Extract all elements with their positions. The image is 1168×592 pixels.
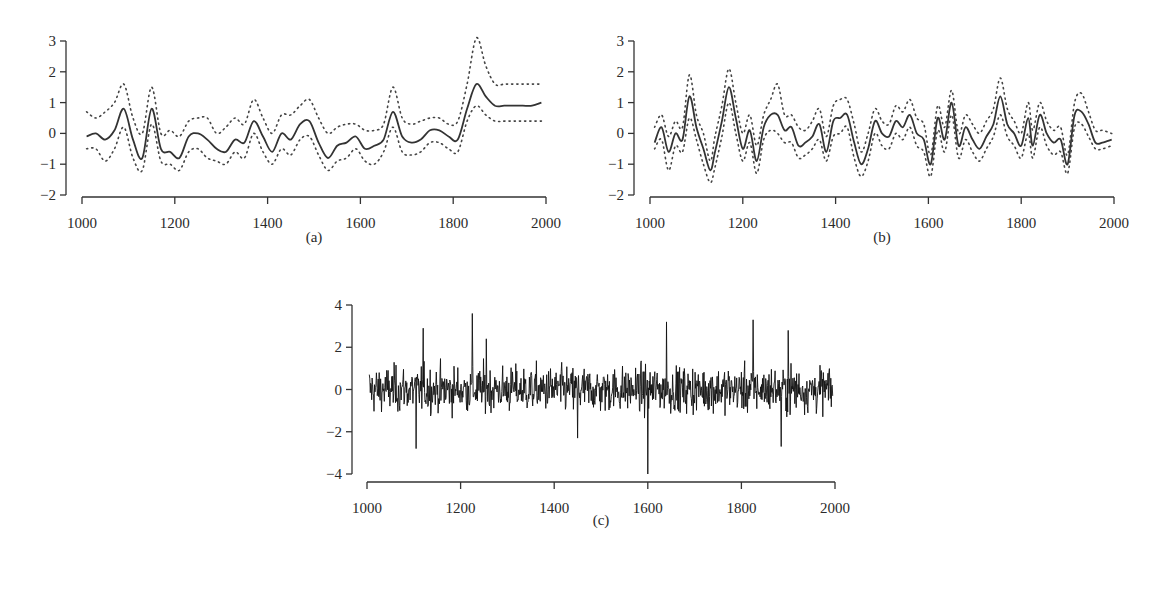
estimate-line — [87, 84, 542, 159]
x-tick-label: 1000 — [635, 215, 665, 231]
y-tick-label: −2 — [326, 424, 342, 440]
x-tick-label: 1800 — [726, 500, 756, 516]
x-tick-label: 1800 — [438, 215, 468, 231]
y-tick-label: 4 — [335, 297, 343, 313]
y-tick-label: 1 — [617, 95, 625, 111]
y-tick-label: −4 — [326, 466, 342, 482]
x-tick-label: 2000 — [820, 500, 850, 516]
y-tick-label: 0 — [49, 125, 57, 141]
y-tick-label: 0 — [335, 382, 343, 398]
panel-label-c: (c) — [593, 512, 610, 529]
x-tick-label: 1400 — [821, 215, 851, 231]
y-tick-label: 1 — [49, 95, 57, 111]
y-tick-label: 3 — [49, 33, 57, 49]
x-tick-label: 2000 — [1099, 215, 1129, 231]
noise-series-line — [369, 314, 832, 475]
x-tick-label: 1200 — [160, 215, 190, 231]
x-tick-label: 1600 — [913, 215, 943, 231]
panel-label-a: (a) — [306, 229, 323, 246]
chart-panel-b: 3210−1−2100012001400160018002000 — [608, 33, 1129, 231]
y-tick-label: −2 — [608, 187, 624, 203]
y-tick-label: 0 — [617, 125, 625, 141]
x-tick-label: 1400 — [253, 215, 283, 231]
chart-panel-c: 420−2−4100012001400160018002000 — [326, 297, 850, 516]
y-tick-label: 2 — [335, 339, 343, 355]
y-tick-label: 2 — [617, 64, 625, 80]
y-tick-label: −2 — [40, 187, 56, 203]
x-tick-label: 1200 — [728, 215, 758, 231]
x-tick-label: 1600 — [633, 500, 663, 516]
panel-label-b: (b) — [873, 229, 891, 246]
chart-panel-a: 3210−1−2100012001400160018002000 — [40, 33, 561, 231]
x-tick-label: 1800 — [1006, 215, 1036, 231]
x-tick-label: 1200 — [446, 500, 476, 516]
y-tick-label: 3 — [617, 33, 625, 49]
x-tick-label: 1000 — [67, 215, 97, 231]
estimate-line — [655, 87, 1112, 170]
figure: 3210−1−2100012001400160018002000 3210−1−… — [0, 0, 1168, 592]
x-tick-label: 1600 — [345, 215, 375, 231]
y-tick-label: −1 — [608, 156, 624, 172]
y-tick-label: −1 — [40, 156, 56, 172]
x-tick-label: 1000 — [352, 500, 382, 516]
y-tick-label: 2 — [49, 64, 57, 80]
x-tick-label: 1400 — [539, 500, 569, 516]
x-tick-label: 2000 — [531, 215, 561, 231]
